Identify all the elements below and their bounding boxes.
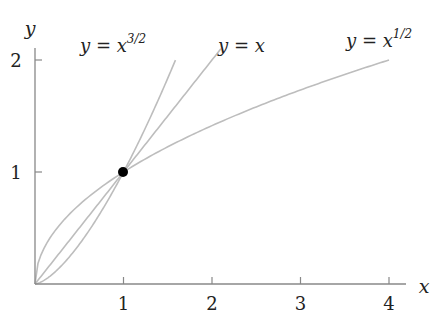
intersection-point <box>118 167 128 177</box>
x-tick-label: 4 <box>383 293 394 314</box>
x-tick-label: 1 <box>118 293 129 314</box>
x-axis-label: x <box>419 275 430 297</box>
series-label-3: y = x <box>345 30 393 51</box>
x-tick-label: 3 <box>295 293 306 314</box>
x-tick-label: 2 <box>206 293 217 314</box>
curve-2 <box>35 49 221 284</box>
y-tick-label: 1 <box>10 162 21 183</box>
y-axis-label: y <box>24 17 36 39</box>
svg-text:y = x1/2: y = x1/2 <box>345 27 412 51</box>
label-x: y = x <box>217 35 265 56</box>
axes <box>35 48 406 284</box>
curve-1 <box>35 60 175 284</box>
ticks: 123412 <box>10 50 394 314</box>
svg-text:y = x3/2: y = x3/2 <box>79 32 146 56</box>
series-sup-1: 3/2 <box>127 32 146 46</box>
label-x-half: y = x1/2 <box>345 27 412 51</box>
chart-canvas: 123412 y x y = x3/2 y = x y = x1/2 <box>0 0 432 326</box>
series-sup-3: 1/2 <box>393 27 412 41</box>
curve-3 <box>35 60 389 284</box>
curves <box>35 49 389 284</box>
series-label-1: y = x <box>79 35 127 56</box>
series-label-2: y = x <box>217 35 265 56</box>
label-x-three-halves: y = x3/2 <box>79 32 146 56</box>
y-tick-label: 2 <box>10 50 21 71</box>
